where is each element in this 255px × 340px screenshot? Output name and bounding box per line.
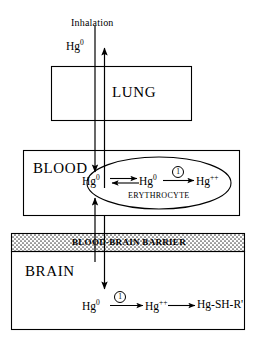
brain-species-2-symbol: Hg [145,300,159,312]
rbc-product-charge: ++ [210,173,218,182]
mercury-distribution-diagram: Inhalation Hg0 LUNG BLOOD Hg0 Hg0 1 Hg++… [0,0,255,340]
rbc-species-symbol: Hg [139,175,153,187]
blood-label: BLOOD [33,161,88,176]
plasma-species-label: Hg0 [82,174,100,187]
brain-species-1-symbol: Hg [82,300,96,312]
inhaled-species-charge: 0 [80,38,84,47]
rbc-enzyme-marker-icon: 1 [172,166,184,178]
brain-species-2-charge: ++ [159,298,167,307]
brain-enzyme-marker-icon: 1 [114,291,126,303]
inhaled-species-symbol: Hg [66,40,80,52]
brain-species-1-label: Hg0 [82,299,100,312]
rbc-product-label: Hg++ [196,174,219,187]
brain-label: BRAIN [25,264,75,279]
rbc-species-label: Hg0 [139,174,157,187]
inhalation-label: Inhalation [71,18,114,28]
brain-species-1-charge: 0 [96,298,100,307]
plasma-species-charge: 0 [96,173,100,182]
lung-label: LUNG [112,85,156,100]
blood-brain-barrier-label: BLOOD-BRAIN BARRIER [72,238,186,247]
brain-species-2-label: Hg++ [145,299,168,312]
rbc-product-symbol: Hg [196,175,210,187]
brain-species-3-label: Hg-SH-R' [197,299,243,311]
erythrocyte-label: ERYTHROCYTE [128,192,190,200]
plasma-species-symbol: Hg [82,175,96,187]
inhaled-species-label: Hg0 [66,39,84,52]
rbc-species-charge: 0 [153,173,157,182]
